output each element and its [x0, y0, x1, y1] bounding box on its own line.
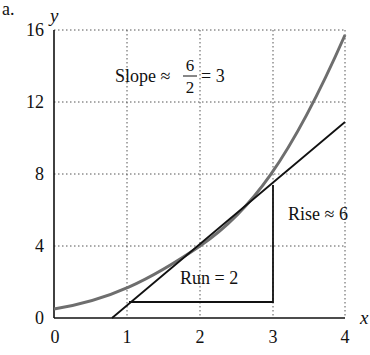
figure-label: a.: [2, 0, 15, 19]
svg-text:0: 0: [51, 327, 60, 347]
x-tick-labels: 0 1 2 3 4: [51, 327, 350, 347]
svg-text:1: 1: [123, 327, 132, 347]
svg-text:6: 6: [186, 56, 195, 75]
chart-svg: a. 16 12 8 4 0 0 1 2 3 4 x y Slope ≈ 6 2: [0, 0, 370, 355]
svg-text:12: 12: [26, 92, 44, 112]
run-label: Run = 2: [180, 268, 238, 288]
svg-text:8: 8: [35, 164, 44, 184]
svg-text:0: 0: [35, 308, 44, 328]
y-axis-label: y: [48, 5, 59, 26]
svg-text:4: 4: [341, 327, 350, 347]
y-tick-labels: 16 12 8 4 0: [26, 20, 44, 328]
x-axis-label: x: [359, 307, 369, 328]
svg-text:4: 4: [35, 236, 44, 256]
chart: a. 16 12 8 4 0 0 1 2 3 4 x y Slope ≈ 6 2: [0, 0, 370, 355]
svg-text:3: 3: [269, 327, 278, 347]
svg-text:Slope ≈: Slope ≈: [115, 66, 171, 86]
svg-text:= 3: = 3: [201, 66, 225, 86]
svg-text:16: 16: [26, 20, 44, 40]
svg-text:2: 2: [186, 78, 195, 97]
svg-text:2: 2: [196, 327, 205, 347]
slope-annotation: Slope ≈ 6 2 = 3: [115, 56, 225, 97]
rise-label: Rise ≈ 6: [288, 204, 348, 224]
